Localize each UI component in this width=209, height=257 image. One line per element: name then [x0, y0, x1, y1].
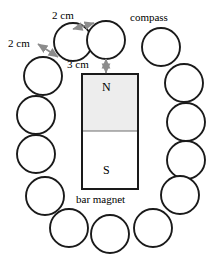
- physics-figure-panel-b: 2 cm 2 cm 3 cm compass bar magnet N S: [0, 0, 209, 257]
- magnet-south-half: [82, 131, 138, 189]
- compass-circle: [26, 177, 64, 215]
- compass-circle: [165, 64, 203, 102]
- figure-canvas: [0, 0, 209, 257]
- dimension-label-3cm: 3 cm: [67, 59, 89, 70]
- compass-circle: [161, 176, 199, 214]
- north-pole-label: N: [102, 81, 111, 93]
- compass-circle: [87, 21, 125, 59]
- compass-annotation-label: compass: [130, 12, 168, 23]
- compass-circle: [50, 209, 88, 247]
- bar-magnet-annotation-label: bar magnet: [76, 194, 125, 205]
- dimension-label-top-2cm: 2 cm: [52, 10, 74, 21]
- compass-circle: [167, 103, 205, 141]
- dimension-label-left-2cm: 2 cm: [8, 38, 30, 49]
- compass-circle: [167, 141, 205, 179]
- compass-circle: [17, 135, 55, 173]
- compass-circle: [17, 96, 55, 134]
- compass-circle: [134, 209, 172, 247]
- compass-circle: [142, 28, 180, 66]
- compass-circle: [91, 215, 129, 253]
- south-pole-label: S: [103, 164, 110, 176]
- compass-circle: [24, 57, 62, 95]
